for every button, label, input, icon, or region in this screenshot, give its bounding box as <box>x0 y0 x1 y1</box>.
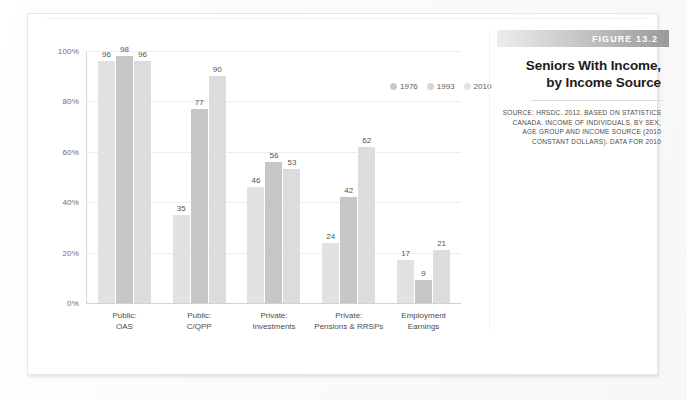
bar-group: 357790 <box>168 51 230 303</box>
x-axis-category-line: Pensions & RRSPs <box>311 321 386 332</box>
caption-divider <box>531 100 663 101</box>
bar-slot: 62 <box>358 51 375 303</box>
legend-item-1993[interactable]: 1993 <box>427 82 455 91</box>
y-axis-tick-label: 0% <box>67 299 79 308</box>
bar-group: 969896 <box>93 51 155 303</box>
bar-value-label: 42 <box>344 186 353 195</box>
legend-item-1976[interactable]: 1976 <box>390 82 418 91</box>
bar[interactable] <box>209 76 226 303</box>
bar[interactable] <box>247 187 264 303</box>
x-axis-category-label: Public:OAS <box>87 310 162 332</box>
legend-label: 1993 <box>437 82 455 91</box>
bar-value-label: 46 <box>252 176 261 185</box>
bar[interactable] <box>358 147 375 303</box>
x-axis-category-line: Private: <box>311 310 386 321</box>
bar-value-label: 77 <box>195 98 204 107</box>
x-axis-category-line: Private: <box>237 310 312 321</box>
bar-slot: 56 <box>265 51 282 303</box>
panel-divider <box>489 30 490 330</box>
bar-slot: 96 <box>134 51 151 303</box>
figure-number-bar: FIGURE 13.2 <box>497 30 669 47</box>
figure-source-note: SOURCE: HRSDC. 2012. BASED ON STATISTICS… <box>497 108 669 146</box>
chart-legend: 197619932010 <box>390 82 491 91</box>
gridline-0: 0% <box>86 303 461 304</box>
bar[interactable] <box>322 243 339 303</box>
bar-value-label: 96 <box>138 50 147 59</box>
bar-slot: 24 <box>322 51 339 303</box>
x-axis-labels: Public:OASPublic:C/QPPPrivate:Investment… <box>87 310 461 332</box>
bar-value-label: 53 <box>288 158 297 167</box>
bar-slot: 77 <box>191 51 208 303</box>
bar[interactable] <box>433 250 450 303</box>
bar-slot: 42 <box>340 51 357 303</box>
bar-value-label: 24 <box>326 232 335 241</box>
x-axis-category-label: Public:C/QPP <box>162 310 237 332</box>
x-axis-category-line: C/QPP <box>162 321 237 332</box>
figure-caption-panel: FIGURE 13.2 Seniors With Income, by Inco… <box>497 30 669 146</box>
y-axis-tick-label: 60% <box>62 147 79 156</box>
bar[interactable] <box>340 197 357 303</box>
bar-slot: 46 <box>247 51 264 303</box>
bar-value-label: 90 <box>213 65 222 74</box>
y-axis-tick-label: 80% <box>62 97 79 106</box>
legend-label: 1976 <box>400 82 418 91</box>
bar-slot: 90 <box>209 51 226 303</box>
scanned-page-screenshot: 100%80%60%40%20%0% 969896357790465653244… <box>0 0 687 400</box>
legend-swatch-icon <box>464 83 471 90</box>
x-axis-category-line: Public: <box>87 310 162 321</box>
bar-value-label: 96 <box>102 50 111 59</box>
bar[interactable] <box>173 215 190 303</box>
bar-slot: 96 <box>98 51 115 303</box>
bar-slot: 35 <box>173 51 190 303</box>
bar-group: 244262 <box>318 51 380 303</box>
x-axis-category-label: Private:Pensions & RRSPs <box>311 310 386 332</box>
bar-chart: 100%80%60%40%20%0% 969896357790465653244… <box>38 40 478 350</box>
bar-value-label: 21 <box>437 239 446 248</box>
bar[interactable] <box>191 109 208 303</box>
y-axis-tick-label: 100% <box>58 47 79 56</box>
page-top-rule <box>46 18 646 19</box>
y-axis-tick-label: 40% <box>62 198 79 207</box>
x-axis-category-label: EmploymentEarnings <box>386 310 461 332</box>
x-axis-category-line: Employment <box>386 310 461 321</box>
bar[interactable] <box>134 61 151 303</box>
bar-value-label: 98 <box>120 45 129 54</box>
legend-item-2010[interactable]: 2010 <box>464 82 492 91</box>
bar[interactable] <box>415 280 432 303</box>
bar-value-label: 62 <box>362 136 371 145</box>
bar-value-label: 35 <box>177 204 186 213</box>
bar-value-label: 9 <box>421 269 425 278</box>
bar-value-label: 56 <box>270 151 279 160</box>
x-axis-category-line: Public: <box>162 310 237 321</box>
figure-title-line-1: Seniors With Income, <box>501 57 661 74</box>
bar[interactable] <box>397 260 414 303</box>
bar-slot: 53 <box>283 51 300 303</box>
bar-slot: 98 <box>116 51 133 303</box>
bar-value-label: 17 <box>401 249 410 258</box>
bar-group: 465653 <box>243 51 305 303</box>
bar[interactable] <box>265 162 282 303</box>
x-axis-category-line: OAS <box>87 321 162 332</box>
legend-swatch-icon <box>390 83 397 90</box>
bar[interactable] <box>116 56 133 303</box>
legend-swatch-icon <box>427 83 434 90</box>
y-axis-tick-label: 20% <box>62 248 79 257</box>
figure-title-line-2: by Income Source <box>501 74 661 91</box>
bar[interactable] <box>283 169 300 303</box>
x-axis-category-line: Investments <box>237 321 312 332</box>
figure-title: Seniors With Income, by Income Source <box>497 57 669 91</box>
bar[interactable] <box>98 61 115 303</box>
figure-number-label: FIGURE 13.2 <box>592 34 669 44</box>
x-axis-category-label: Private:Investments <box>237 310 312 332</box>
x-axis-category-line: Earnings <box>386 321 461 332</box>
